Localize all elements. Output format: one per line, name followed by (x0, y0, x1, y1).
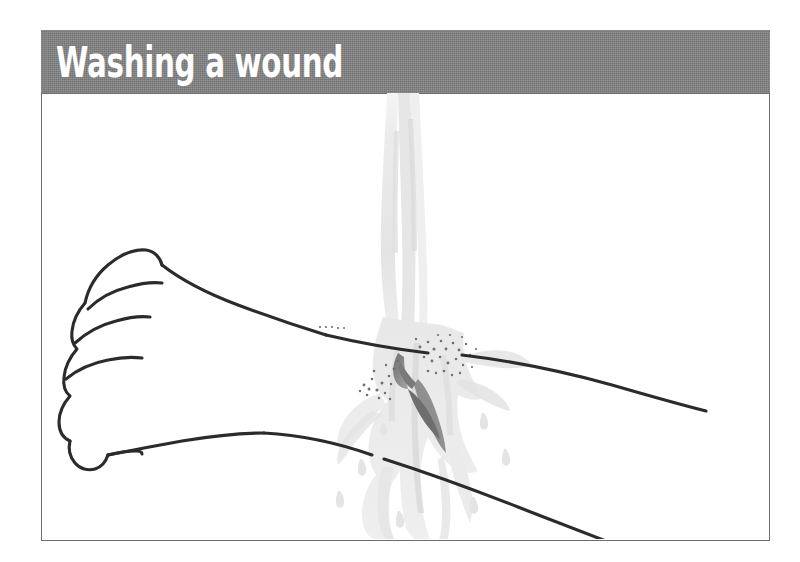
finger-line-1 (88, 283, 162, 309)
water-stream (381, 93, 428, 333)
hand-back-contour (162, 265, 326, 335)
wound-washing-illustration (42, 93, 769, 539)
finger-line-3 (66, 357, 142, 379)
figure-title: Washing a wound (56, 34, 343, 92)
finger-outer-contour (59, 303, 85, 441)
hand-bottom-contour (108, 433, 264, 455)
illustration-frame (41, 93, 770, 541)
figure-card: Washing a wound (41, 30, 770, 541)
hand-top-contour (85, 250, 162, 303)
title-banner: Washing a wound (41, 30, 770, 93)
figure-root: Washing a wound (0, 0, 800, 562)
finger-line-2 (75, 317, 150, 343)
thumb-contour (69, 441, 108, 470)
